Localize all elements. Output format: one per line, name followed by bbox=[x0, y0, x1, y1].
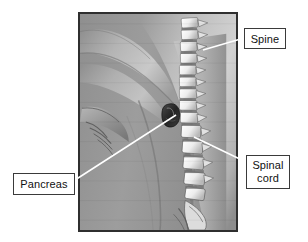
vertebrae-thoracic bbox=[179, 17, 198, 123]
callout-label-spine: Spine bbox=[244, 28, 286, 49]
callout-label-pancreas: Pancreas bbox=[13, 173, 75, 195]
anatomy-photo-panel bbox=[78, 12, 238, 232]
callout-label-spinal-cord: Spinal cord bbox=[246, 155, 290, 189]
pancreas-organ bbox=[162, 104, 180, 127]
anatomy-photo-inner bbox=[80, 14, 236, 230]
anatomy-illustration bbox=[80, 14, 236, 230]
anatomy-figure: Spine Spinal cord Pancreas bbox=[0, 0, 308, 242]
